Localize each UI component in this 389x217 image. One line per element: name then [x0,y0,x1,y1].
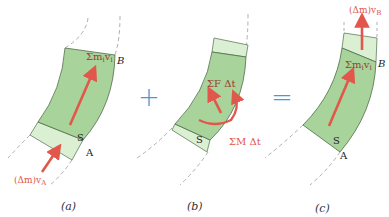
label-system-c: S [333,136,340,146]
plus-operator: + [138,84,160,110]
label-impulse-force: ΣF Δt [207,79,235,89]
label-sum-momentum-c: Σmivi [345,60,372,72]
label-outflow-c: (Δm)vB [349,6,381,17]
diagram-canvas [0,0,389,217]
label-point-a-a: A [86,148,93,158]
label-sum-momentum-a: Σmivi [86,52,113,64]
caption-a: (a) [61,201,76,212]
panel-a [8,16,120,185]
label-point-a-c: A [340,151,347,161]
label-system-b: S [196,135,203,145]
equals-operator: = [271,84,293,110]
label-point-b-a: B [117,56,124,66]
label-system-a: S [77,133,84,143]
caption-b: (b) [187,201,203,212]
label-inflow-a: (Δm)vA [14,176,46,187]
label-impulse-moment: ΣM Δt [229,137,261,147]
label-point-b-c: B [378,59,385,69]
caption-c: (c) [315,203,330,214]
